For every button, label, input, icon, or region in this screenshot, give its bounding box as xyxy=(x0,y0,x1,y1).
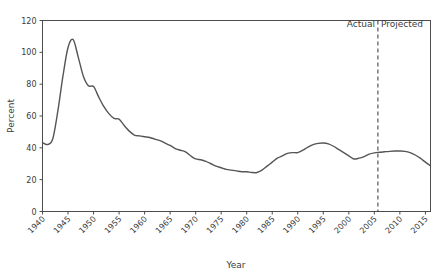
y-tick-label: 0 xyxy=(31,208,36,217)
x-tick-label: 1975 xyxy=(205,215,226,236)
line-chart-svg: 020406080100120 194019451950195519601965… xyxy=(0,0,448,274)
x-tick-label: 1980 xyxy=(230,215,251,236)
y-axis-title: Percent xyxy=(6,99,16,133)
y-tick-label: 120 xyxy=(21,17,36,26)
x-tick-label: 1965 xyxy=(154,215,175,236)
y-tick-label: 20 xyxy=(26,176,36,185)
y-tick-label: 60 xyxy=(26,112,36,121)
x-tick-label: 1950 xyxy=(77,215,98,236)
y-tick-label: 100 xyxy=(21,48,36,57)
plot-frame xyxy=(43,21,431,212)
x-tick-label: 2010 xyxy=(384,215,405,236)
x-tick-label: 1955 xyxy=(103,215,124,236)
x-tick-label: 1985 xyxy=(256,215,277,236)
x-tick-label: 1960 xyxy=(128,215,149,236)
x-tick-label: 1945 xyxy=(52,215,73,236)
x-tick-label: 1970 xyxy=(179,215,200,236)
x-tick-label: 2005 xyxy=(358,215,379,236)
actual-label: Actual xyxy=(347,19,375,29)
chart-figure: 020406080100120 194019451950195519601965… xyxy=(0,0,448,274)
projected-label: Projected xyxy=(381,19,423,29)
x-tick-label: 2015 xyxy=(409,215,430,236)
y-axis: 020406080100120 xyxy=(21,17,42,217)
x-tick-label: 1990 xyxy=(281,215,302,236)
x-axis-title: Year xyxy=(225,260,245,270)
x-tick-label: 2000 xyxy=(332,215,353,236)
y-tick-label: 40 xyxy=(26,144,36,153)
plot-area-border xyxy=(43,21,431,212)
y-tick-label: 80 xyxy=(26,80,36,89)
x-tick-label: 1940 xyxy=(26,215,47,236)
x-axis: 1940194519501955196019651970197519801985… xyxy=(26,212,430,236)
x-tick-label: 1995 xyxy=(307,215,328,236)
